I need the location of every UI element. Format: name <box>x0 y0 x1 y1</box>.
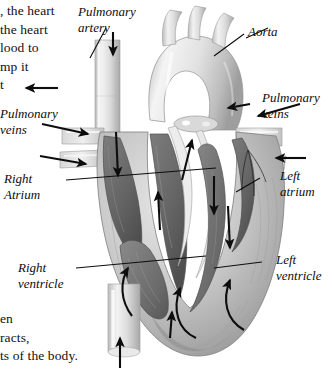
label-line: ventricle <box>276 268 321 284</box>
label-line: Pulmonary <box>78 4 136 20</box>
aortic-root <box>174 116 218 132</box>
inferior-vena-cava-vessel <box>108 284 140 357</box>
body-line: mp it <box>0 58 55 77</box>
surrounding-body-text-bottom: en racts, ts of the body. <box>0 310 78 366</box>
body-line: racts, <box>0 329 78 348</box>
label-line: ventricle <box>18 276 63 292</box>
label-line: Left <box>276 252 321 268</box>
label-pulmonary-veins-right: Pulmonary veins <box>262 90 320 121</box>
label-line: veins <box>262 106 320 122</box>
body-line: lood to <box>0 39 55 58</box>
heart-diagram-figure: , the heart the heart lood to mp it t en… <box>0 0 334 374</box>
label-line: atrium <box>280 184 315 200</box>
label-line: Right <box>4 171 40 187</box>
pulmonary-artery-vessel <box>95 40 120 140</box>
body-line: , the heart <box>0 2 55 21</box>
label-line: veins <box>0 122 58 138</box>
label-pulmonary-artery: Pulmonary artery <box>78 4 136 35</box>
body-line: t <box>0 76 55 95</box>
label-line: Right <box>18 260 63 276</box>
label-line: artery <box>78 20 136 36</box>
label-line: Aorta <box>248 24 278 40</box>
label-left-ventricle: Left ventricle <box>276 252 321 283</box>
label-left-atrium: Left atrium <box>280 168 315 199</box>
body-line: en <box>0 310 78 329</box>
label-pulmonary-veins-left: Pulmonary veins <box>0 106 58 137</box>
label-line: Left <box>280 168 315 184</box>
label-right-atrium: Right Atrium <box>4 171 40 202</box>
label-line: Pulmonary <box>0 106 58 122</box>
body-line: ts of the body. <box>0 347 78 366</box>
label-line: Atrium <box>4 187 40 203</box>
label-aorta: Aorta <box>248 24 278 40</box>
aorta-vessel <box>149 6 243 130</box>
body-line: the heart <box>0 21 55 40</box>
label-line: Pulmonary <box>262 90 320 106</box>
surrounding-body-text-top: , the heart the heart lood to mp it t <box>0 2 55 95</box>
label-right-ventricle: Right ventricle <box>18 260 63 291</box>
